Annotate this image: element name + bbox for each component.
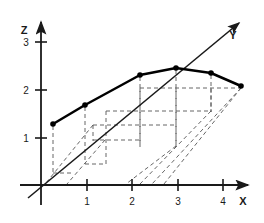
- plot-svg: Z X Y 3 2 1 1 2 3 4: [0, 0, 264, 223]
- x-tick-label-4: 4: [220, 196, 226, 207]
- z-tick-label-2: 2: [23, 85, 29, 96]
- labels-group: Z X Y 3 2 1 1 2 3 4: [21, 24, 248, 207]
- z-axis-label: Z: [21, 24, 28, 36]
- series-polyline: [53, 68, 241, 124]
- guide-lines-group: [46, 70, 241, 184]
- data-point: [137, 72, 143, 78]
- x-axis-label: X: [239, 195, 247, 207]
- x-tick-label-1: 1: [84, 196, 90, 207]
- z-tick-label-3: 3: [23, 37, 29, 48]
- data-point: [208, 70, 214, 76]
- projection-ray: [140, 111, 211, 184]
- data-series-z-curve: [50, 65, 244, 127]
- z-tick-label-1: 1: [23, 133, 29, 144]
- figure-canvas: Z X Y 3 2 1 1 2 3 4: [0, 0, 264, 223]
- projection-ray: [152, 88, 241, 184]
- y-axis-label: Y: [229, 29, 237, 41]
- data-point: [50, 121, 56, 127]
- horizontal-guides: [53, 88, 241, 173]
- grid-verticals: [93, 88, 211, 165]
- x-tick-label-3: 3: [175, 196, 181, 207]
- projection-ray: [67, 140, 105, 184]
- x-tick-label-2: 2: [129, 196, 135, 207]
- data-point: [82, 102, 88, 108]
- data-point: [238, 83, 244, 89]
- data-point: [173, 65, 179, 71]
- y-axis-line: [28, 23, 239, 198]
